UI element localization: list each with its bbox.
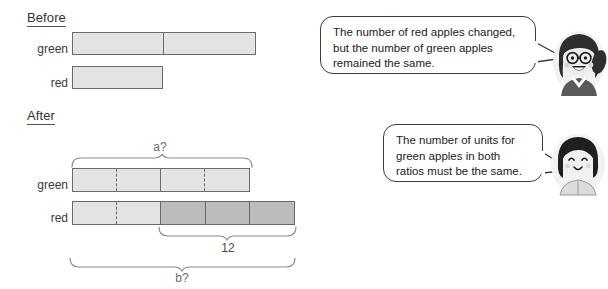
bubble-2-line-2: green apples in both	[396, 149, 531, 165]
after-heading-text: After	[27, 108, 55, 125]
before-green-unit-2	[164, 33, 255, 54]
before-red-bar	[72, 66, 163, 89]
after-red-unit-2	[117, 202, 161, 224]
before-heading-text: Before	[27, 10, 66, 27]
bracket-b-label: b?	[152, 271, 212, 285]
after-red-unit-5	[250, 202, 294, 224]
after-red-label: red	[10, 211, 68, 225]
bracket-b-brace	[68, 258, 299, 272]
bubble-1-line-2: but the number of green apples	[333, 41, 524, 57]
bubble-2-line-3: ratios must be the same.	[396, 164, 531, 180]
bracket-a-brace	[70, 154, 256, 168]
before-red-label: red	[10, 76, 68, 90]
after-heading: After	[27, 108, 55, 123]
after-green-bar	[72, 168, 250, 192]
bubble-units-must-match: The number of units for green apples in …	[383, 124, 543, 182]
before-red-unit-1	[73, 67, 162, 88]
before-green-label: green	[10, 42, 68, 56]
bubble-red-apples-changed: The number of red apples changed, but th…	[320, 16, 536, 74]
after-red-unit-4	[206, 202, 250, 224]
girl-with-glasses-avatar	[551, 22, 607, 98]
after-red-unit-3	[161, 202, 205, 224]
after-red-unit-1	[73, 202, 117, 224]
after-green-unit-1	[73, 169, 117, 191]
before-green-bar	[72, 32, 256, 55]
bracket-twelve-brace	[157, 227, 300, 241]
after-red-bar	[72, 201, 295, 225]
bubble-2-tail	[541, 148, 573, 176]
after-green-unit-2	[117, 169, 161, 191]
bubble-1-line-3: remained the same.	[333, 56, 524, 72]
girl-bob-haircut-avatar	[549, 128, 607, 196]
after-green-unit-3	[161, 169, 205, 191]
bubble-1-line-1: The number of red apples changed,	[333, 25, 524, 41]
before-heading: Before	[27, 10, 66, 25]
bubble-2-line-1: The number of units for	[396, 133, 531, 149]
bracket-twelve-label: 12	[198, 241, 258, 255]
after-green-label: green	[10, 178, 68, 192]
after-green-unit-4	[205, 169, 249, 191]
bracket-a-label: a?	[130, 140, 190, 154]
before-green-unit-1	[73, 33, 164, 54]
bubble-1-tail	[534, 38, 566, 66]
